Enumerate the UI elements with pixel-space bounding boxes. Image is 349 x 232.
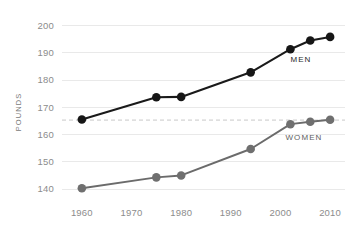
y-tick-label-190: 190 [38, 47, 54, 58]
data-point-women-2010[interactable] [326, 116, 335, 125]
x-tick-label-1960: 1960 [71, 207, 93, 218]
series-annotations: MENWOMEN [285, 55, 322, 142]
weight-trend-line-chart: 140150160170180190200 196019701980199020… [0, 0, 349, 232]
x-tick-label-1980: 1980 [170, 207, 192, 218]
chart-plot-area: 140150160170180190200 196019701980199020… [0, 0, 349, 232]
data-point-men-1975[interactable] [152, 93, 161, 102]
y-tick-label-180: 180 [38, 74, 54, 85]
series-line-women [82, 120, 330, 188]
y-tick-label-140: 140 [38, 183, 54, 194]
data-point-women-1975[interactable] [152, 173, 161, 182]
x-tick-label-2000: 2000 [269, 207, 291, 218]
y-tick-label-170: 170 [38, 102, 54, 113]
y-tick-label-160: 160 [38, 129, 54, 140]
gridlines [62, 25, 345, 189]
x-tick-label-2010: 2010 [319, 207, 341, 218]
data-point-women-2002[interactable] [286, 120, 295, 129]
data-point-men-1960[interactable] [78, 115, 87, 124]
x-tick-label-1990: 1990 [220, 207, 242, 218]
data-point-men-2006[interactable] [306, 36, 315, 45]
series-label-men: MEN [290, 55, 311, 64]
y-axis-tick-labels: 140150160170180190200 [38, 20, 54, 195]
data-point-women-1980[interactable] [177, 171, 186, 180]
series-label-women: WOMEN [285, 133, 322, 142]
data-point-men-1994[interactable] [246, 68, 255, 77]
y-tick-label-200: 200 [38, 20, 54, 31]
data-point-women-1994[interactable] [246, 145, 255, 154]
data-point-women-2006[interactable] [306, 117, 315, 126]
y-axis-title: POUNDS [14, 93, 23, 132]
x-tick-label-1970: 1970 [121, 207, 143, 218]
data-point-men-2002[interactable] [286, 45, 295, 54]
x-axis-tick-labels: 196019701980199020002010 [71, 207, 341, 218]
data-point-women-1960[interactable] [78, 184, 87, 193]
y-tick-label-150: 150 [38, 156, 54, 167]
data-point-men-1980[interactable] [177, 93, 186, 102]
data-point-men-2010[interactable] [326, 33, 335, 42]
